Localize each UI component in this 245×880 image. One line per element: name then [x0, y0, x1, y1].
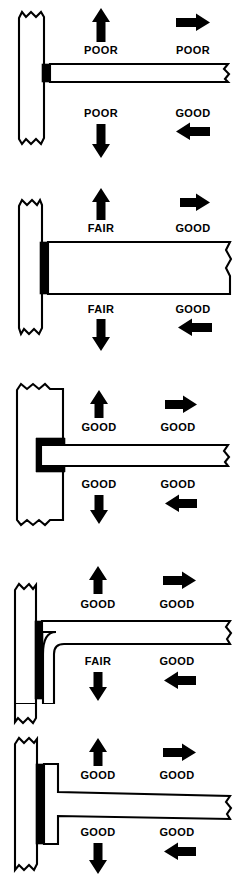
- rating-up: GOOD: [80, 598, 115, 610]
- rating-down: FAIR: [88, 303, 115, 315]
- rating-up: FAIR: [88, 222, 115, 234]
- arrow-down-icon: [92, 124, 110, 158]
- rating-down: FAIR: [85, 655, 112, 667]
- arrow-left-icon: [164, 672, 196, 690]
- rating-up: GOOD: [80, 769, 115, 781]
- horizontal-bar: [50, 64, 229, 82]
- rating-down: POOR: [84, 107, 118, 119]
- horizontal-bar: [41, 445, 229, 466]
- weld-panel-3: GOOD GOOD GOOD GOOD: [0, 352, 245, 528]
- weld-panel-1: POOR POOR POOR GOOD: [0, 0, 245, 176]
- arrow-up-icon: [89, 566, 107, 594]
- rating-right: GOOD: [159, 769, 194, 781]
- rating-left: GOOD: [175, 107, 210, 119]
- arrow-left-icon: [165, 495, 197, 513]
- weld-panel-2: FAIR GOOD FAIR GOOD: [0, 176, 245, 352]
- rating-left: GOOD: [175, 303, 210, 315]
- arrow-right-icon: [163, 572, 196, 590]
- arrow-right-icon: [176, 14, 210, 32]
- vertical-plate: [15, 738, 37, 870]
- rating-right: GOOD: [159, 598, 194, 610]
- arrow-right-icon: [165, 396, 197, 414]
- weld-panel-5: GOOD GOOD GOOD GOOD: [0, 704, 245, 880]
- arrow-up-icon: [89, 738, 107, 766]
- rating-down: GOOD: [81, 478, 116, 490]
- vertical-plate: [15, 584, 36, 704]
- plate-fragment-above: [15, 704, 36, 723]
- rating-right: POOR: [176, 44, 210, 56]
- arrow-left-icon: [176, 123, 210, 141]
- arrow-right-icon: [163, 744, 196, 762]
- rating-right: GOOD: [175, 222, 210, 234]
- rating-left: GOOD: [159, 655, 194, 667]
- bent-bracket: [42, 621, 231, 704]
- rating-down: GOOD: [80, 826, 115, 838]
- arrow-down-icon: [90, 495, 108, 524]
- rating-left: GOOD: [159, 826, 194, 838]
- rating-up: POOR: [84, 44, 118, 56]
- weld-panel-4: GOOD GOOD FAIR GOOD: [0, 528, 245, 704]
- rating-up: GOOD: [81, 421, 116, 433]
- arrow-up-icon: [92, 8, 110, 42]
- arrow-down-icon: [89, 843, 107, 874]
- arrow-up-icon: [90, 390, 108, 418]
- rating-left: GOOD: [160, 478, 195, 490]
- vertical-plate: [19, 12, 44, 144]
- arrow-down-icon: [92, 319, 110, 351]
- arrow-up-icon: [92, 188, 110, 220]
- arrow-right-icon: [180, 194, 210, 212]
- rating-right: GOOD: [160, 421, 195, 433]
- arrow-down-icon: [89, 672, 107, 701]
- arrow-left-icon: [164, 843, 196, 861]
- horizontal-bar: [48, 242, 231, 294]
- vertical-plate: [19, 200, 42, 334]
- arrow-left-icon: [178, 319, 212, 337]
- flared-flange-bar: [44, 764, 231, 844]
